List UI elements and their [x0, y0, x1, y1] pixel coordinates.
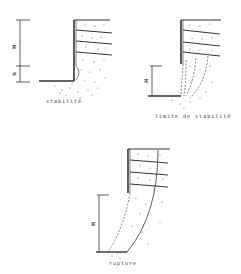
small-height-label-stability: h	[11, 72, 17, 76]
panel-rupture	[96, 149, 170, 252]
caption-rupture: rupture	[109, 260, 137, 266]
soil-dots-rupture	[112, 154, 164, 259]
panel-stability-limit	[148, 20, 221, 98]
soil-dots-stability	[55, 24, 107, 99]
height-label-rupture: H	[90, 222, 96, 226]
panel-stability	[16, 20, 112, 82]
height-label-stability-limit: H	[143, 79, 149, 83]
caption-stability-limit: limite de stabilité	[155, 113, 231, 119]
diagram-canvas	[0, 0, 241, 274]
caption-stability: stabilité	[46, 98, 82, 104]
height-label-stability: H	[11, 45, 17, 49]
